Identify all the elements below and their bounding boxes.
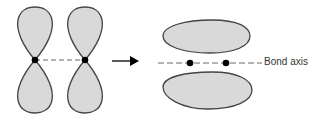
- arrow-right-icon: [112, 56, 139, 66]
- nucleus-icon: [223, 60, 230, 67]
- pi-lobe-top: [163, 20, 250, 53]
- nucleus-icon: [187, 60, 194, 67]
- nucleus-icon: [82, 57, 89, 64]
- bond-axis-label: Bond axis: [264, 56, 308, 67]
- pi-lobe-bottom: [163, 72, 252, 109]
- nucleus-icon: [32, 57, 39, 64]
